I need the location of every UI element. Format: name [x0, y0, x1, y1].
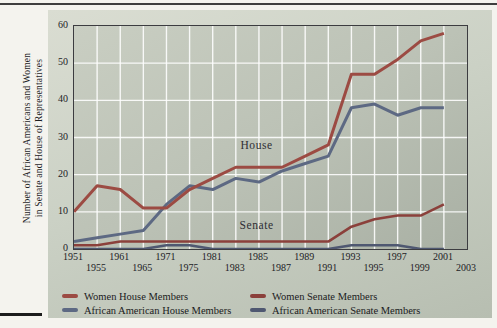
page: Number of African Americans and Women in…	[0, 0, 497, 328]
x-tick-label: 1987	[263, 262, 299, 273]
x-tick-label: 1989	[286, 251, 322, 262]
legend-item-women-house-members: Women House Members	[62, 286, 188, 300]
x-tick-label: 1985	[240, 251, 276, 262]
x-tick-label: 1961	[101, 251, 137, 262]
x-tick-label: 1997	[379, 251, 415, 262]
legend-swatch-icon	[62, 294, 78, 298]
annotation-house: House	[240, 139, 272, 151]
x-tick-label: 1975	[171, 262, 207, 273]
legend-swatch-icon	[62, 308, 78, 312]
top-rule	[0, 3, 497, 5]
x-tick-label: 2001	[425, 251, 461, 262]
x-tick-label: 1983	[217, 262, 253, 273]
annotation-senate: Senate	[239, 219, 273, 231]
line-chart: HouseSenate	[74, 26, 467, 249]
y-tick-label: 60	[44, 19, 68, 31]
legend-swatch-icon	[250, 308, 266, 312]
y-tick-label: 30	[44, 131, 68, 143]
x-tick-label: 1993	[332, 251, 368, 262]
y-tick-label: 50	[44, 56, 68, 68]
y-tick-label: 40	[44, 93, 68, 105]
x-tick-label: 1991	[309, 262, 345, 273]
bottom-left-rule	[0, 313, 42, 316]
x-tick-label: 2003	[448, 262, 484, 273]
legend-label: African American House Members	[84, 305, 231, 316]
x-tick-label: 1955	[78, 262, 114, 273]
y-axis-title-line1: Number of African Americans and Women	[22, 18, 34, 258]
x-tick-label: 1971	[147, 251, 183, 262]
legend-item-african-american-senate-members: African American Senate Members	[250, 300, 420, 314]
y-axis-title: Number of African Americans and Women in…	[22, 18, 46, 258]
x-tick-label: 1981	[194, 251, 230, 262]
legend-item-women-senate-members: Women Senate Members	[250, 286, 377, 300]
x-tick-label: 1951	[55, 251, 91, 262]
plot-area: HouseSenate	[73, 25, 468, 250]
legend-label: African American Senate Members	[272, 305, 420, 316]
x-tick-label: 1995	[356, 262, 392, 273]
y-tick-label: 10	[44, 205, 68, 217]
y-tick-label: 20	[44, 168, 68, 180]
legend-swatch-icon	[250, 294, 266, 298]
legend-item-african-american-house-members: African American House Members	[62, 300, 231, 314]
x-tick-label: 1965	[124, 262, 160, 273]
x-tick-label: 1999	[402, 262, 438, 273]
